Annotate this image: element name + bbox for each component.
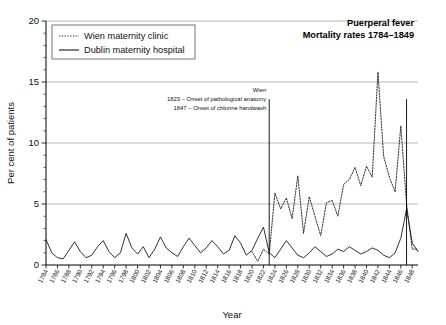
chart-canvas: 05101520Per cent of patients178417861788… bbox=[0, 0, 446, 325]
legend-label-dublin: Dublin maternity hospital bbox=[84, 45, 185, 55]
annotation-1823: 1823 – Onset of pathological anatomy bbox=[167, 96, 266, 102]
annotation-wien: Wien bbox=[253, 87, 266, 93]
y-tick-label-5: 5 bbox=[34, 198, 39, 209]
chart-subtitle: Mortality rates 1784–1849 bbox=[303, 30, 414, 40]
y-tick-label-10: 10 bbox=[28, 137, 39, 148]
chart-figure: 05101520Per cent of patients178417861788… bbox=[0, 0, 446, 325]
y-tick-label-15: 15 bbox=[28, 76, 39, 87]
y-axis-title: Per cent of patients bbox=[5, 102, 16, 184]
chart-title: Puerperal fever bbox=[347, 18, 414, 28]
x-tick-label-1848: 1848 bbox=[403, 268, 416, 284]
annotation-1847: 1847 – Onset of chlorine handwash bbox=[174, 105, 267, 111]
legend-label-wien: Wien maternity clinic bbox=[84, 31, 169, 41]
y-tick-label-20: 20 bbox=[28, 15, 39, 26]
y-tick-label-0: 0 bbox=[34, 259, 39, 270]
x-axis-title: Year bbox=[222, 309, 241, 320]
